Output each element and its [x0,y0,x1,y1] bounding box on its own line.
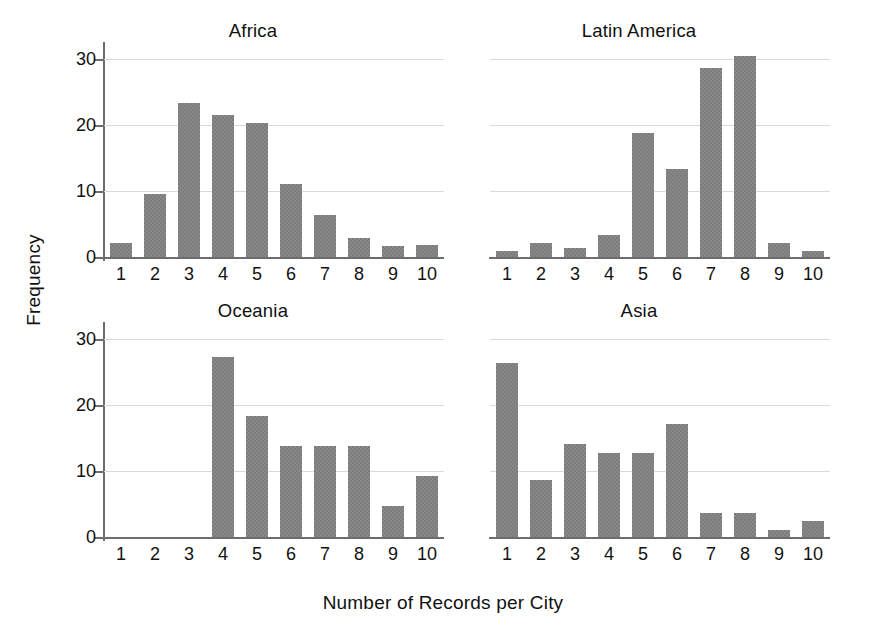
bar [802,521,823,537]
x-tick-label: 1 [116,264,126,285]
x-tick-label: 9 [388,264,398,285]
x-tick-label: 3 [184,264,194,285]
bar-slot [592,326,626,537]
bar-slot [592,46,626,257]
bar-slot [410,326,444,537]
bar-slot [558,326,592,537]
plot-area [104,46,444,257]
y-tick-label: 30 [76,49,96,70]
bar [700,513,721,537]
bar [496,251,517,257]
bar-slot [626,46,660,257]
x-tick-label: 5 [638,544,648,565]
bar-slot [490,46,524,257]
bar-slot [728,46,762,257]
bar-series [490,326,830,537]
bar [598,235,619,257]
x-tick-label: 8 [354,544,364,565]
bar-slot [524,326,558,537]
plot-area [490,326,830,537]
bar [530,480,551,537]
x-tick-label: 9 [774,264,784,285]
x-tick-label: 2 [150,544,160,565]
bar-slot [342,326,376,537]
bar-slot [762,326,796,537]
x-tick-label: 5 [638,264,648,285]
bar-slot [240,46,274,257]
x-tick-label: 7 [706,544,716,565]
panel-oceania: Oceania010203012345678910 [56,298,450,578]
x-tick-label: 2 [536,264,546,285]
panel-latin-america: Latin America010203012345678910 [442,18,836,298]
bar-slot [410,46,444,257]
bar [212,357,233,537]
panel-grid: Africa010203012345678910Latin America010… [0,0,886,592]
x-tick-label: 8 [740,544,750,565]
x-axis-line [103,537,444,539]
x-axis-line [489,257,830,259]
bar-slot [376,326,410,537]
x-axis-title: Number of Records per City [0,592,886,614]
bar [144,194,165,257]
x-axis-line [489,537,830,539]
bar-series [490,46,830,257]
x-tick-label: 1 [502,544,512,565]
bar [246,123,267,258]
x-tick-label: 3 [570,544,580,565]
panel-title: Africa [56,20,450,42]
bar [212,115,233,257]
bar [632,453,653,537]
bar-slot [342,46,376,257]
x-tick-label: 2 [536,544,546,565]
histogram-figure: Frequency Africa010203012345678910Latin … [0,0,886,638]
bar-slot [240,326,274,537]
bar-slot [376,46,410,257]
bar [416,245,437,257]
bar-slot [172,326,206,537]
bar [178,103,199,257]
bar [314,215,335,257]
x-tick-label: 3 [570,264,580,285]
x-tick-label: 8 [354,264,364,285]
bar [734,56,755,257]
y-tick-label: 20 [76,395,96,416]
bar [768,243,789,257]
x-tick-label: 8 [740,264,750,285]
panel-title: Latin America [442,20,836,42]
x-axis-line [103,257,444,259]
bar-slot [104,326,138,537]
bar-slot [206,46,240,257]
bar-slot [308,326,342,537]
plot-area [490,46,830,257]
bar-slot [762,46,796,257]
bar [382,246,403,257]
bar [348,446,369,537]
y-tick-label: 10 [76,181,96,202]
bar-slot [558,46,592,257]
bar [666,424,687,537]
panel-title: Asia [442,300,836,322]
bar-slot [308,46,342,257]
bar [632,133,653,257]
bar [802,251,823,257]
panel-asia: Asia010203012345678910 [442,298,836,578]
bar [666,169,687,257]
y-tick-label: 30 [76,329,96,350]
bar-slot [660,326,694,537]
x-tick-label: 6 [286,544,296,565]
x-tick-label: 7 [706,264,716,285]
bar [564,248,585,257]
x-tick-label: 9 [388,544,398,565]
x-tick-label: 5 [252,264,262,285]
bar-slot [138,46,172,257]
x-tick-label: 10 [803,264,823,285]
bar-slot [694,326,728,537]
x-tick-label: 4 [218,544,228,565]
y-tick-label: 20 [76,115,96,136]
y-tick-label: 0 [86,247,96,268]
panel-title: Oceania [56,300,450,322]
plot-area [104,326,444,537]
bar [110,243,131,257]
bar-slot [626,326,660,537]
bar-slot [728,326,762,537]
